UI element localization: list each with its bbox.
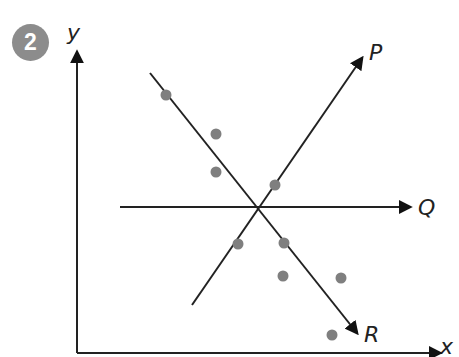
data-point [270,180,281,191]
data-point [279,238,290,249]
data-point [161,90,172,101]
scatter-lines-diagram [0,0,459,357]
data-point [211,167,222,178]
data-point [327,330,338,341]
data-point [336,273,347,284]
data-point [233,239,244,250]
data-point [278,271,289,282]
data-point [211,129,222,140]
